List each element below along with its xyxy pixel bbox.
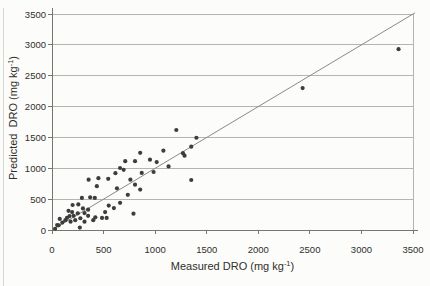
data-point xyxy=(71,203,75,207)
data-point xyxy=(87,178,91,182)
data-point xyxy=(73,218,77,222)
data-point xyxy=(82,211,86,215)
y-tick-label: 1500 xyxy=(25,132,46,143)
data-point xyxy=(182,154,186,158)
data-point xyxy=(72,214,76,218)
data-point xyxy=(396,47,400,51)
data-point xyxy=(78,216,82,220)
x-tick-label: 1000 xyxy=(145,244,166,255)
data-point xyxy=(76,211,80,215)
data-point xyxy=(155,160,159,164)
data-point xyxy=(70,210,74,214)
data-point xyxy=(67,214,71,218)
data-point xyxy=(123,159,127,163)
data-point xyxy=(76,202,80,206)
data-point xyxy=(66,209,70,213)
data-point xyxy=(105,216,109,220)
x-tick-label: 3000 xyxy=(351,244,372,255)
data-point xyxy=(107,204,111,208)
data-point xyxy=(96,176,100,180)
x-tick-label: 0 xyxy=(49,244,54,255)
data-point xyxy=(131,212,135,216)
data-point xyxy=(138,151,142,155)
x-tick-label: 3500 xyxy=(402,244,423,255)
data-point xyxy=(81,206,85,210)
data-point xyxy=(93,196,97,200)
data-point xyxy=(106,177,110,181)
x-axis-title-superscript: -1 xyxy=(284,259,291,268)
x-tick-label: 2000 xyxy=(248,244,269,255)
data-point xyxy=(88,195,92,199)
data-point xyxy=(126,193,130,197)
data-point xyxy=(118,166,122,170)
y-tick-label: 0 xyxy=(41,225,46,236)
data-point xyxy=(151,170,155,174)
y-axis-title-text: Predicted DRO (mg kg xyxy=(7,66,19,180)
y-axis-title-superscript: -1 xyxy=(6,60,15,67)
x-axis-title-text: Measured DRO (mg kg xyxy=(171,260,284,272)
data-point xyxy=(80,196,84,200)
data-point xyxy=(57,223,61,227)
x-axis-title: Measured DRO (mg kg-1) xyxy=(52,260,413,272)
data-point xyxy=(95,184,99,188)
data-point xyxy=(128,178,132,182)
data-point xyxy=(133,183,137,187)
x-tick-label: 2500 xyxy=(299,244,320,255)
data-point xyxy=(133,159,137,163)
data-point xyxy=(122,168,126,172)
data-point xyxy=(58,217,62,221)
data-point xyxy=(140,171,144,175)
data-point xyxy=(166,164,170,168)
data-point xyxy=(86,214,90,218)
y-tick-label: 500 xyxy=(30,194,46,205)
y-tick-label: 1000 xyxy=(25,163,46,174)
x-tick-label: 1500 xyxy=(196,244,217,255)
data-point xyxy=(194,136,198,140)
data-point xyxy=(174,128,178,132)
data-point xyxy=(138,187,142,191)
data-point xyxy=(161,149,165,153)
x-tick-label: 500 xyxy=(96,244,112,255)
data-point xyxy=(78,225,82,229)
y-tick-label: 3500 xyxy=(25,9,46,20)
y-tick-label: 3000 xyxy=(25,39,46,50)
data-point xyxy=(113,171,117,175)
data-point xyxy=(82,220,86,224)
data-point xyxy=(93,215,97,219)
data-point xyxy=(100,216,104,220)
y-axis-title: Predicted DRO (mg kg-1) xyxy=(7,8,19,228)
y-tick-label: 2000 xyxy=(25,101,46,112)
scatter-plot-figure: 0500100015002000250030003500050010001500… xyxy=(0,0,430,286)
scatter-plot-canvas: 0500100015002000250030003500050010001500… xyxy=(0,0,430,286)
data-point xyxy=(189,178,193,182)
data-point xyxy=(118,201,122,205)
x-axis-title-close: ) xyxy=(291,260,295,272)
data-point xyxy=(53,227,57,231)
data-point xyxy=(68,220,72,224)
y-tick-label: 2500 xyxy=(25,70,46,81)
data-point xyxy=(301,86,305,90)
data-point xyxy=(86,208,90,212)
data-point xyxy=(103,210,107,214)
data-point xyxy=(189,145,193,149)
data-point xyxy=(115,186,119,190)
data-point xyxy=(112,206,116,210)
data-point xyxy=(148,158,152,162)
